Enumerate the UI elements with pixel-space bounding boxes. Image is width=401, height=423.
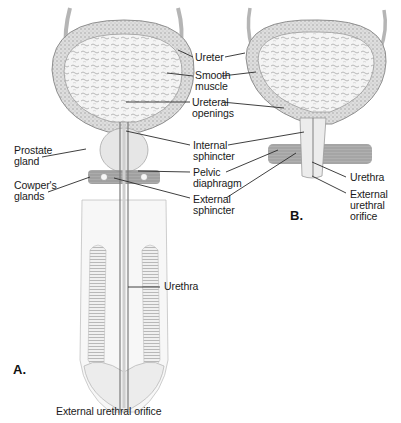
panel-a-illustration	[52, 8, 194, 412]
label-pelvic-diaphragm: Pelvic diaphragm	[193, 167, 242, 189]
label-ureteral-openings: Ureteral openings	[192, 97, 234, 119]
panel-label-a: A.	[13, 362, 26, 377]
label-urethra-b: Urethra	[350, 172, 384, 183]
label-ureter: Ureter	[195, 52, 224, 63]
panel-label-b: B.	[290, 208, 303, 223]
label-urethra-a: Urethra	[164, 281, 198, 292]
label-internal-sphincter: Internal sphincter	[193, 140, 235, 162]
label-smooth-muscle: Smooth muscle	[195, 70, 231, 92]
label-external-sphincter: External sphincter	[193, 194, 235, 216]
label-cowpers-glands: Cowper's glands	[14, 180, 57, 202]
panel-b-illustration	[246, 8, 386, 178]
label-prostate-gland: Prostate gland	[14, 145, 52, 167]
label-external-urethral-orifice-b: External urethral orifice	[350, 189, 388, 222]
label-external-urethral-orifice-a: External urethral orifice	[56, 406, 161, 417]
urinary-anatomy-figure: Ureter Smooth muscle Ureteral openings P…	[0, 0, 401, 423]
